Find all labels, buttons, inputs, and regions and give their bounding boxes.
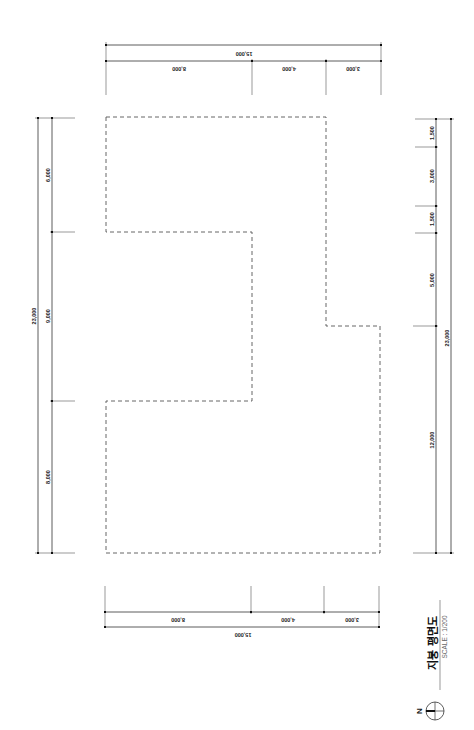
top-dimensions: 15,000 8,000 4,000 3,000 <box>105 42 382 95</box>
right-total-label: 23,000 <box>444 330 450 347</box>
north-arrow-icon: N <box>415 702 444 720</box>
right-seg-3-label: 1,500 <box>429 212 435 226</box>
left-seg-1-label: 6,000 <box>45 168 51 182</box>
roof-outline <box>106 117 380 553</box>
left-total-label: 23,000 <box>31 308 37 325</box>
left-dimensions: 6,000 9,000 8,000 23,000 <box>31 117 75 554</box>
roof-plan-drawing: 15,000 8,000 4,000 3,000 8,000 4,000 3,0… <box>0 0 474 730</box>
top-total-label: 15,000 <box>236 51 253 57</box>
bottom-seg-2-label: 4,000 <box>281 617 295 623</box>
right-seg-2-label: 3,000 <box>429 169 435 183</box>
drawing-title: 지붕 평면도 <box>426 616 440 670</box>
bottom-seg-3-label: 3,000 <box>345 617 359 623</box>
right-dimensions: 1,500 3,000 1,500 5,000 12,000 23,000 <box>413 118 454 554</box>
drawing-scale: SCALE : 1/200 <box>441 615 448 658</box>
top-seg-1-label: 8,000 <box>172 66 186 72</box>
right-seg-5-label: 12,000 <box>429 432 435 449</box>
north-label: N <box>415 708 424 714</box>
bottom-dimensions: 8,000 4,000 3,000 15,000 <box>104 586 380 638</box>
right-seg-1-label: 1,500 <box>429 126 435 140</box>
right-seg-4-label: 5,000 <box>429 273 435 287</box>
bottom-total-label: 15,000 <box>235 632 252 638</box>
left-seg-3-label: 8,000 <box>45 470 51 484</box>
top-seg-2-label: 4,000 <box>282 66 296 72</box>
bottom-seg-1-label: 8,000 <box>171 617 185 623</box>
title-block: 지붕 평면도 SCALE : 1/200 N <box>415 600 448 720</box>
top-seg-3-label: 3,000 <box>346 66 360 72</box>
left-seg-2-label: 9,000 <box>45 309 51 323</box>
